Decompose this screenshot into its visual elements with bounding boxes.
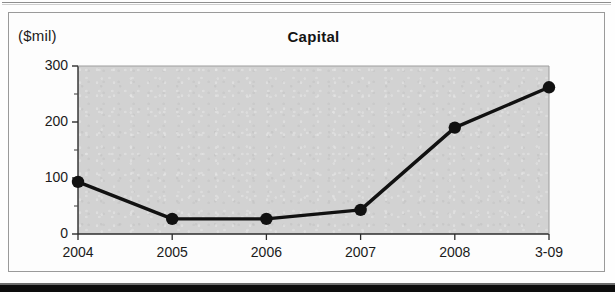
x-tick-label: 2004 (33, 244, 123, 260)
y-tick-label: 100 (16, 169, 68, 185)
y-tick-label: 200 (16, 113, 68, 129)
x-axis-ticks (78, 234, 549, 240)
x-tick-label: 2006 (221, 244, 311, 260)
data-line-capital (78, 87, 549, 219)
x-tick-label: 2005 (127, 244, 217, 260)
y-tick-label: 0 (16, 225, 68, 241)
scanned-page: ($mil) Capital 0100200300 20042005200620… (0, 0, 615, 294)
data-point (449, 121, 461, 133)
data-point (72, 176, 84, 188)
chart-plot-wrapper: 0100200300 200420052006200720083-09 (0, 0, 615, 294)
x-tick-label: 3-09 (504, 244, 594, 260)
data-point (354, 204, 366, 216)
x-tick-label: 2008 (410, 244, 500, 260)
data-point (543, 81, 555, 93)
page-bottom-bar (0, 285, 615, 292)
data-point (260, 213, 272, 225)
x-tick-label: 2007 (316, 244, 406, 260)
y-tick-label: 300 (16, 57, 68, 73)
data-point (166, 213, 178, 225)
data-point-markers (72, 81, 555, 225)
